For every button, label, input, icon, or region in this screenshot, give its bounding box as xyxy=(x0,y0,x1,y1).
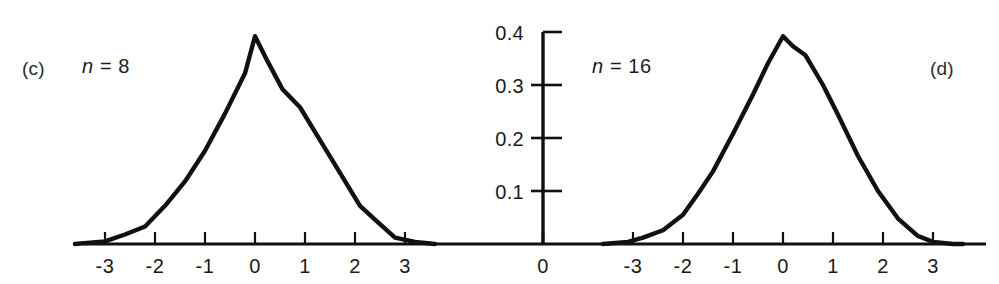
xtick-label: -2 xyxy=(146,255,165,277)
xtick-label: 3 xyxy=(927,255,939,277)
normal-curve-n16 xyxy=(603,36,963,244)
ytick-label: 0.1 xyxy=(495,181,524,203)
xtick-label: -2 xyxy=(674,255,693,277)
x-axis-ticks-right xyxy=(633,232,933,244)
xtick-label: 2 xyxy=(349,255,361,277)
y-axis-tick-labels: 0.4 0.3 0.2 0.1 xyxy=(495,22,524,203)
xtick-label: -1 xyxy=(724,255,743,277)
xtick-label: -1 xyxy=(196,255,215,277)
y-axis-ticks xyxy=(531,32,562,244)
xtick-label: -3 xyxy=(96,255,115,277)
x-axis-tick-labels-right: -3 -2 -1 0 1 2 3 xyxy=(624,255,939,277)
figure-container: (c) n = 8 (d) n = 16 -3 - xyxy=(0,0,999,284)
x-axis-ticks-left xyxy=(105,232,405,244)
xtick-label: 1 xyxy=(299,255,311,277)
ytick-label: 0.4 xyxy=(495,22,524,44)
xtick-label: 1 xyxy=(827,255,839,277)
ytick-label: 0.2 xyxy=(495,128,524,150)
xtick-label: 0 xyxy=(249,255,261,277)
xtick-label: 3 xyxy=(399,255,411,277)
x-axis-tick-labels-left: -3 -2 -1 0 1 2 3 xyxy=(96,255,411,277)
chart-panel-c: -3 -2 -1 0 1 2 3 xyxy=(75,36,435,277)
y-axis-origin-label: 0 xyxy=(537,255,549,277)
normal-curve-n8 xyxy=(75,36,435,244)
chart-panel-d: 0.4 0.3 0.2 0.1 0 -3 -2 -1 0 1 xyxy=(495,22,963,277)
xtick-label: 0 xyxy=(777,255,789,277)
xtick-label: 2 xyxy=(877,255,889,277)
ytick-label: 0.3 xyxy=(495,75,524,97)
xtick-label: -3 xyxy=(624,255,643,277)
plot-svg: -3 -2 -1 0 1 2 3 0.4 0.3 xyxy=(0,0,999,284)
